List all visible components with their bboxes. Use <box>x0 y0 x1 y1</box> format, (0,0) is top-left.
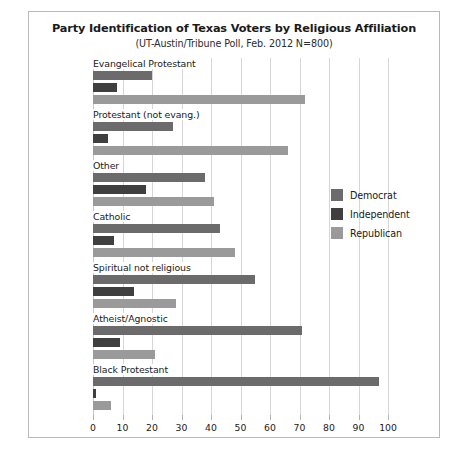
x-tick-label: 70 <box>294 422 306 433</box>
bar-row <box>93 71 388 80</box>
x-tick-label: 30 <box>176 422 188 433</box>
bar-row <box>93 401 388 410</box>
bar-row <box>93 299 388 308</box>
title-block: Party Identification of Texas Voters by … <box>29 22 439 49</box>
bar-republican <box>93 248 235 257</box>
bar-row <box>93 326 388 335</box>
legend-swatch-icon <box>331 189 343 201</box>
chart-frame: Party Identification of Texas Voters by … <box>28 11 440 438</box>
group-label: Catholic <box>93 211 133 222</box>
bar-row <box>93 83 388 92</box>
x-tick-label: 60 <box>264 422 276 433</box>
bar-row <box>93 338 388 347</box>
x-tick-label: 50 <box>235 422 247 433</box>
bar-independent <box>93 236 114 245</box>
x-tick-mark <box>211 415 212 420</box>
x-tick-mark <box>182 415 183 420</box>
bar-group: Evangelical Protestant <box>93 58 388 109</box>
bar-row <box>93 248 388 257</box>
legend: DemocratIndependentRepublican <box>331 189 410 246</box>
x-tick-mark <box>329 415 330 420</box>
x-tick-mark <box>359 415 360 420</box>
bar-row <box>93 173 388 182</box>
bar-group: Black Protestant <box>93 364 388 415</box>
chart-subtitle: (UT-Austin/Tribune Poll, Feb. 2012 N=800… <box>29 38 439 49</box>
legend-label: Democrat <box>350 190 397 201</box>
bar-row <box>93 122 388 131</box>
bar-democrat <box>93 326 302 335</box>
bar-democrat <box>93 224 220 233</box>
bar-republican <box>93 95 305 104</box>
x-tick-mark <box>123 415 124 420</box>
bar-row <box>93 389 388 398</box>
x-tick-label: 100 <box>379 422 397 433</box>
bar-republican <box>93 197 214 206</box>
bar-republican <box>93 350 155 359</box>
group-label: Black Protestant <box>93 364 171 375</box>
bar-republican <box>93 401 111 410</box>
bar-row <box>93 146 388 155</box>
bar-independent <box>93 83 117 92</box>
bar-row <box>93 287 388 296</box>
x-tick-label: 90 <box>353 422 365 433</box>
bar-republican <box>93 146 288 155</box>
x-tick-mark <box>388 415 389 420</box>
bar-row <box>93 377 388 386</box>
x-tick-label: 40 <box>205 422 217 433</box>
bar-independent <box>93 389 96 398</box>
bar-independent <box>93 338 120 347</box>
legend-item: Democrat <box>331 189 410 201</box>
legend-swatch-icon <box>331 208 343 220</box>
x-tick-mark <box>241 415 242 420</box>
plot-area: Evangelical ProtestantProtestant (not ev… <box>93 58 388 415</box>
bar-independent <box>93 134 108 143</box>
bar-independent <box>93 185 146 194</box>
bar-democrat <box>93 71 152 80</box>
bar-row <box>93 350 388 359</box>
legend-item: Independent <box>331 208 410 220</box>
group-label: Evangelical Protestant <box>93 58 199 69</box>
group-label: Protestant (not evang.) <box>93 109 203 120</box>
bar-group: Protestant (not evang.) <box>93 109 388 160</box>
bar-row <box>93 275 388 284</box>
bar-row <box>93 95 388 104</box>
bar-group: Spiritual not religious <box>93 262 388 313</box>
legend-item: Republican <box>331 227 410 239</box>
bar-democrat <box>93 377 379 386</box>
legend-label: Independent <box>350 209 410 220</box>
bar-democrat <box>93 275 255 284</box>
chart-title: Party Identification of Texas Voters by … <box>29 22 439 35</box>
bar-republican <box>93 299 176 308</box>
bar-democrat <box>93 173 205 182</box>
bar-independent <box>93 287 134 296</box>
group-label: Other <box>93 160 122 171</box>
x-tick-mark <box>152 415 153 420</box>
x-tick-label: 10 <box>117 422 129 433</box>
x-tick-label: 0 <box>90 422 96 433</box>
x-axis: 0102030405060708090100 <box>93 415 388 439</box>
bar-row <box>93 134 388 143</box>
x-tick-label: 20 <box>146 422 158 433</box>
group-label: Spiritual not religious <box>93 262 194 273</box>
legend-swatch-icon <box>331 227 343 239</box>
bar-group: Atheist/Agnostic <box>93 313 388 364</box>
legend-label: Republican <box>350 228 402 239</box>
x-tick-mark <box>300 415 301 420</box>
x-tick-mark <box>93 415 94 420</box>
bar-democrat <box>93 122 173 131</box>
x-tick-label: 80 <box>323 422 335 433</box>
x-tick-mark <box>270 415 271 420</box>
group-label: Atheist/Agnostic <box>93 313 171 324</box>
